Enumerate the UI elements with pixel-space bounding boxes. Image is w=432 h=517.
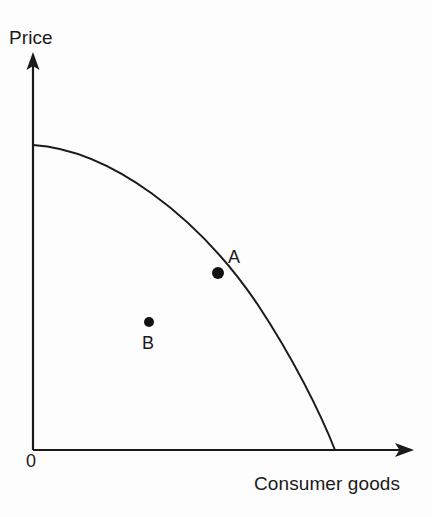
data-point-b-label: B	[142, 334, 154, 352]
x-axis-title: Consumer goods	[254, 474, 400, 493]
y-axis-title: Price	[9, 28, 53, 47]
ppf-diagram	[0, 0, 432, 517]
origin-label: 0	[26, 452, 36, 470]
chart-canvas: Price 0 Consumer goods A B	[0, 0, 432, 517]
data-point-b-marker[interactable]	[144, 317, 154, 327]
data-point-a-marker[interactable]	[212, 267, 224, 279]
ppf-curve	[33, 145, 335, 450]
data-point-a-label: A	[228, 248, 240, 266]
